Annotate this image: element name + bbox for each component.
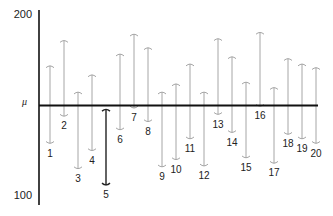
interval-label: 16 [254,110,265,121]
interval-label: 3 [75,173,81,184]
confidence-interval-chart: 200 100 μ 123456789101112131415161718192… [0,0,333,216]
interval-label: 14 [226,137,237,148]
interval-label: 4 [89,155,95,166]
mu-label: μ [22,96,27,107]
interval-label: 8 [145,126,151,137]
interval-label: 2 [61,120,67,131]
interval-label: 11 [185,143,195,154]
interval-label: 6 [117,134,123,145]
interval-label: 9 [159,171,165,182]
interval-label: 5 [103,189,109,200]
interval-label: 19 [296,143,307,154]
plot-area [0,0,333,216]
interval-label: 10 [170,164,181,175]
interval-label: 15 [240,162,251,173]
interval-label: 12 [198,170,209,181]
y-tick-bottom: 100 [2,189,32,201]
interval-label: 20 [310,148,321,159]
interval-label: 1 [47,148,53,159]
y-tick-top: 200 [2,8,32,20]
interval-label: 13 [212,119,223,130]
interval-label: 17 [268,167,279,178]
interval-label: 7 [131,112,137,123]
interval-label: 18 [282,138,293,149]
